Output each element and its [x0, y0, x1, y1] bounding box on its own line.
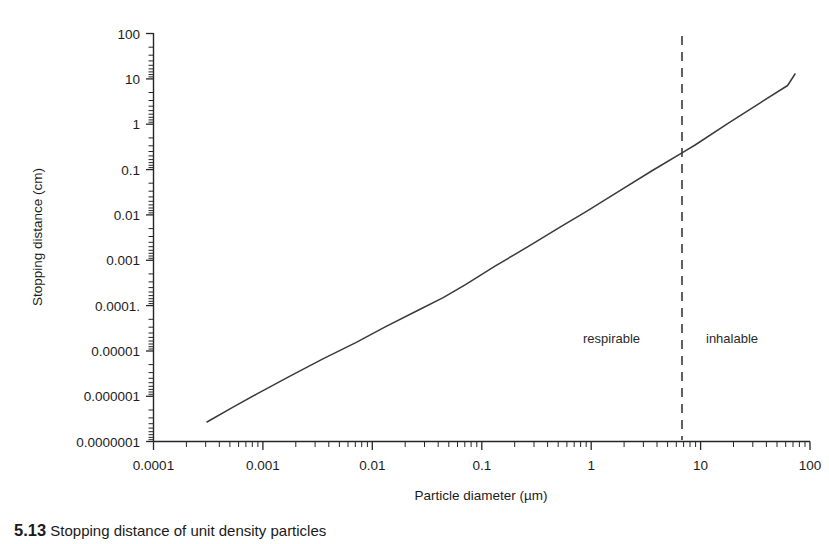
- figure-container: 100 10 1 0.1 0.01 0.001 0.0001. 0.00001 …: [0, 0, 829, 544]
- x-tick-label: 1: [587, 458, 595, 473]
- x-tick-label: 0.1: [472, 458, 491, 473]
- stopping-distance-chart: 100 10 1 0.1 0.01 0.001 0.0001. 0.00001 …: [0, 0, 829, 544]
- y-tick-label: 100: [117, 27, 140, 42]
- y-axis-title: Stopping distance (cm): [30, 168, 45, 306]
- figure-caption: 5.13 Stopping distance of unit density p…: [14, 521, 814, 544]
- y-tick-label: 10: [125, 72, 140, 87]
- y-tick-label: 0.01: [114, 208, 140, 223]
- y-tick-label: 0.001: [106, 253, 140, 268]
- caption-description: Stopping distance of unit density partic…: [50, 522, 326, 539]
- x-tick-label: 0.001: [246, 458, 280, 473]
- x-tick-label: 100: [799, 458, 822, 473]
- y-tick-label: 0.0001.: [95, 299, 140, 314]
- caption-number: 5.13: [14, 521, 46, 539]
- x-axis-title: Particle diameter (µm): [414, 488, 547, 503]
- inhalable-label: inhalable: [706, 331, 758, 346]
- x-tick-label: 10: [693, 458, 708, 473]
- caption-line: 5.13 Stopping distance of unit density p…: [14, 521, 814, 540]
- x-tick-label: 0.01: [359, 458, 385, 473]
- respirable-label: respirable: [583, 331, 640, 346]
- y-tick-label: 0.00001: [91, 344, 140, 359]
- y-tick-label: 0.1: [121, 163, 140, 178]
- x-tick-label: 0.0001: [133, 458, 174, 473]
- y-tick-label: 0.0000001: [76, 435, 140, 450]
- y-tick-label: 0.000001: [84, 389, 140, 404]
- y-tick-label: 1: [132, 117, 140, 132]
